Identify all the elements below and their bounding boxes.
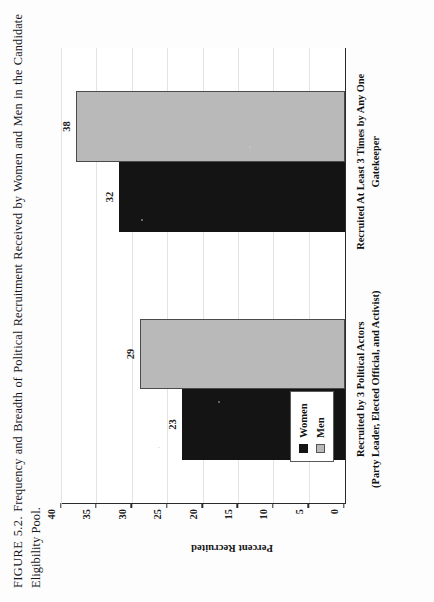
x-axis-category-label: Recruited by 3 Political Actors(Party Le… (354, 276, 383, 504)
figure-caption-text: Frequency and Breadth of Political Recru… (11, 14, 43, 588)
y-axis-tick-label: 10 (258, 503, 269, 520)
y-axis-tick-mark (237, 503, 238, 508)
legend-label: Men (315, 417, 326, 438)
scan-speckle (249, 146, 251, 148)
y-axis-tick-label: 5 (293, 503, 304, 514)
y-axis-tick-mark (60, 503, 61, 508)
y-axis-tick-mark (166, 503, 167, 508)
y-axis-tick-label: 25 (152, 503, 163, 520)
rotated-page-wrapper: FIGURE 5.2. Frequency and Breadth of Pol… (0, 0, 434, 602)
bar-chart: Percent Recruited 0510152025303540Recrui… (56, 42, 408, 550)
bar-group: 2329 (62, 276, 345, 504)
chart-legend: WomenMen (290, 391, 334, 462)
bar-group: 3238 (62, 48, 345, 276)
legend-item[interactable]: Women (298, 403, 309, 453)
plot-area: 0510152025303540Recruited by 3 Political… (62, 48, 346, 504)
y-axis-tick-mark (131, 503, 132, 508)
y-axis-title: Percent Recruited (191, 543, 273, 554)
bar-women[interactable]: 32 (119, 162, 345, 233)
y-axis-tick-mark (343, 503, 344, 508)
scan-speckle (141, 219, 143, 221)
bar-value-label: 23 (167, 419, 178, 430)
category-label-main: Recruited by 3 Political Actors (354, 276, 369, 504)
y-axis-tick-mark (308, 503, 309, 508)
bar-value-label: 32 (104, 192, 115, 203)
figure-caption: FIGURE 5.2. Frequency and Breadth of Pol… (10, 14, 46, 588)
bar-men[interactable]: 38 (76, 91, 345, 162)
bar-value-label: 29 (125, 349, 136, 360)
y-axis-tick-label: 35 (81, 503, 92, 520)
book-page: FIGURE 5.2. Frequency and Breadth of Pol… (0, 0, 434, 602)
bar-men[interactable]: 29 (140, 319, 345, 390)
legend-item[interactable]: Men (315, 403, 326, 453)
y-axis-tick-label: 40 (46, 503, 57, 520)
y-axis-tick-mark (201, 503, 202, 508)
y-axis-tick-label: 0 (329, 503, 340, 514)
y-axis-tick-mark (272, 503, 273, 508)
category-label-main: Recruited At Least 3 Times by Any One Ga… (354, 48, 383, 276)
x-axis-category-label: Recruited At Least 3 Times by Any One Ga… (354, 48, 383, 276)
legend-label: Women (298, 403, 309, 438)
y-axis-tick-label: 20 (187, 503, 198, 520)
scan-speckle (218, 401, 220, 403)
y-axis-tick-label: 15 (222, 503, 233, 520)
bar-value-label: 38 (61, 121, 72, 132)
figure-number: FIGURE 5.2. (11, 516, 25, 588)
legend-swatch-women (299, 444, 308, 453)
legend-swatch-men (316, 444, 325, 453)
y-axis-tick-label: 30 (116, 503, 127, 520)
category-label-sub: (Party Leader, Elected Official, and Act… (369, 276, 384, 504)
y-axis-tick-mark (95, 503, 96, 508)
